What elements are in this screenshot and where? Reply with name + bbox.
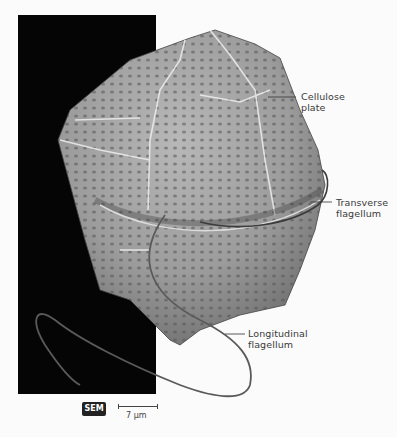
- label-longitudinal-flagellum: Longitudinal flagellum: [248, 328, 308, 350]
- scale-label: 7 µm: [126, 411, 147, 420]
- label-transverse-flagellum: Transverse flagellum: [336, 197, 388, 219]
- dinoflagellate-figure: Cellulose plate Transverse flagellum Lon…: [0, 0, 397, 437]
- label-cellulose-plate: Cellulose plate: [301, 91, 345, 113]
- scale-bar: [118, 404, 158, 409]
- sem-badge: SEM: [82, 402, 106, 416]
